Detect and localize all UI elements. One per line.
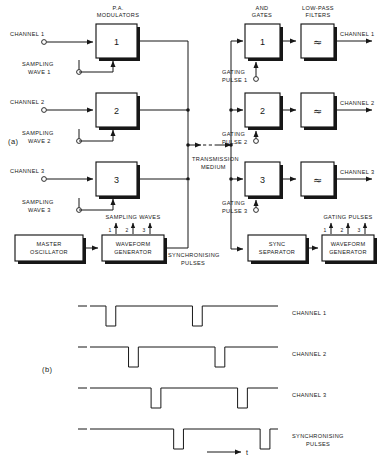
low-pass-filter-3-symbol: ≈ (313, 174, 322, 187)
part-a-label: (a) (8, 137, 18, 146)
waveform-generator-rx-label-line2: GENERATOR (329, 249, 367, 255)
waveform-channel-2 (90, 347, 278, 367)
gating-pulse-1-terminal (254, 77, 259, 82)
waveform-label-channel-1: CHANNEL 1 (292, 310, 326, 316)
sampling-wave-1-label-line1: SAMPLING (22, 61, 54, 67)
modulator-3-number: 3 (114, 175, 119, 185)
sync-separator-box (248, 235, 306, 261)
sampling-waves-heading: SAMPLING WAVES (106, 214, 161, 220)
receive-output-label-3: CHANNEL 3 (340, 169, 374, 175)
gating-pulse-number-3: 3 (358, 227, 361, 233)
sampling-wave-number-1: 1 (109, 227, 112, 233)
sampling-wave-number-2: 2 (126, 227, 129, 233)
gating-pulse-number-2: 2 (341, 227, 344, 233)
gating-pulse-1-label-line2: PULSE 1 (222, 77, 247, 83)
waveform-synchronising-pulses (90, 429, 278, 449)
low-pass-filter-2-symbol: ≈ (313, 105, 322, 118)
sampling-wave-2-label-line1: SAMPLING (22, 130, 54, 136)
gating-pulse-3-label-line2: PULSE 3 (222, 208, 247, 214)
and-gates-heading-line1: AND (256, 5, 269, 11)
waveform-channel-1 (90, 306, 278, 326)
channel-1-input-terminal (42, 40, 47, 45)
sampling-wave-2-label-line2: WAVE 2 (28, 138, 51, 144)
master-oscillator-label-line2: OSCILLATOR (30, 249, 68, 255)
modulator-1-number: 1 (114, 37, 119, 47)
waveform-generator-tx-label-line1: WAVEFORM (116, 241, 151, 247)
transmit-input-label-1: CHANNEL 1 (10, 31, 44, 37)
gating-pulses-heading: GATING PULSES (323, 214, 372, 220)
figure-root: (a) P.A. MODULATORS AND GATES LOW-PASS F… (0, 0, 379, 467)
gating-pulse-number-1: 1 (324, 227, 327, 233)
low-pass-heading-line2: FILTERS (305, 12, 330, 18)
part-b-label: (b) (42, 365, 52, 374)
and-gate-2-number: 2 (260, 106, 265, 116)
master-oscillator-label-line1: MASTER (36, 241, 61, 247)
channel-3-input-terminal (42, 177, 47, 182)
waveform-generator-rx-label-line1: WAVEFORM (331, 241, 366, 247)
sampling-wave-3-label-line1: SAMPLING (22, 199, 54, 205)
sync-separator-label-line2: SEPARATOR (259, 249, 295, 255)
pa-modulators-heading-line2: MODULATORS (97, 12, 139, 18)
sampling-wave-3-label-line2: WAVE 3 (28, 207, 51, 213)
modulator-2-number: 2 (114, 106, 119, 116)
waveform-channel-3 (90, 388, 278, 408)
transmission-medium-label-line2: MEDIUM (201, 164, 226, 170)
gating-pulse-2-terminal (254, 139, 259, 144)
sampling-wave-number-3: 3 (143, 227, 146, 233)
low-pass-heading-line1: LOW-PASS (302, 5, 334, 11)
and-gate-1-number: 1 (260, 37, 265, 47)
gating-pulse-2-label-line1: GATING (222, 131, 245, 137)
sampling-wave-1-label-line2: WAVE 1 (28, 69, 51, 75)
waveform-generator-tx-label-line2: GENERATOR (114, 249, 152, 255)
low-pass-filter-1-symbol: ≈ (313, 36, 322, 49)
synchronising-pulses-label-line2: PULSES (181, 260, 205, 266)
sync-separator-label-line1: SYNC (269, 241, 286, 247)
waveform-generator-rx-box (322, 235, 374, 261)
and-gate-3-number: 3 (260, 175, 265, 185)
gating-pulse-3-label-line1: GATING (222, 200, 245, 206)
waveform-label-channel-2: CHANNEL 2 (292, 351, 326, 357)
gating-pulse-1-label-line1: GATING (222, 69, 245, 75)
receive-output-label-1: CHANNEL 1 (340, 31, 374, 37)
and-gates-heading-line2: GATES (252, 12, 272, 18)
pa-modulators-heading-line1: P.A. (112, 5, 123, 11)
receive-output-label-2: CHANNEL 2 (340, 100, 374, 106)
channel-2-input-terminal (42, 108, 47, 113)
transmit-input-label-3: CHANNEL 3 (10, 168, 44, 174)
waveform-generator-tx-box (102, 235, 164, 261)
waveform-label-channel-3: CHANNEL 3 (292, 392, 326, 398)
time-axis-label: t (246, 449, 248, 456)
gating-pulse-2-label-line2: PULSE 2 (222, 139, 247, 145)
waveform-label2-synchronising-pulses: PULSES (306, 441, 330, 447)
transmission-medium-label-line1: TRANSMISSION (192, 156, 239, 162)
waveform-label-synchronising-pulses: SYNCHRONISING (292, 433, 344, 439)
timing-waveforms: CHANNEL 1CHANNEL 2CHANNEL 3SYNCHRONISING… (78, 306, 344, 449)
transmit-input-label-2: CHANNEL 2 (10, 99, 44, 105)
master-oscillator-box (15, 235, 83, 261)
gating-pulse-3-terminal (254, 208, 259, 213)
synchronising-pulses-label-line1: SYNCHRONISING (168, 252, 220, 258)
